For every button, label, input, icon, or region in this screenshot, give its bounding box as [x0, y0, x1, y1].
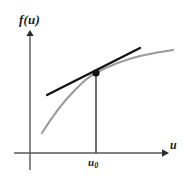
tangency-point-marker: [92, 69, 99, 76]
figure-container: f(u) u u0: [0, 0, 184, 178]
y-axis-arrowhead: [26, 30, 33, 36]
x-axis-arrowhead: [162, 149, 169, 157]
x-tick-label-u0-subscript: 0: [94, 161, 98, 170]
x-tick-label-u0: u0: [88, 157, 98, 168]
y-axis-label: f(u): [19, 13, 40, 26]
x-axis-label: u: [170, 139, 177, 151]
function-curve: [42, 50, 173, 133]
